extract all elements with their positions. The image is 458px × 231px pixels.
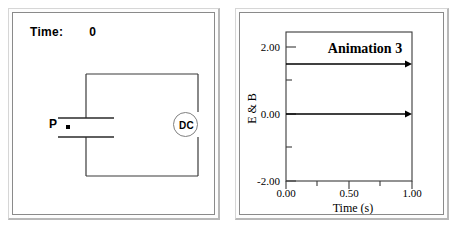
chart-title: Animation 3 (300, 41, 430, 57)
chart-panel-inner: Animation 3 E & B Time (s) 2.00 0.00 -2.… (239, 12, 444, 215)
chart-xtick-label-050: 0.50 (327, 187, 371, 199)
chart-xtick-label-0: 0.00 (264, 187, 308, 199)
chart-panel: Animation 3 E & B Time (s) 2.00 0.00 -2.… (235, 8, 449, 220)
dc-source-symbol: DC (173, 112, 198, 137)
chart-x-axis-label: Time (s) (268, 201, 438, 215)
circuit-panel: Time:0 P DC (8, 8, 220, 220)
chart-xtick-label-100: 1.00 (390, 187, 434, 199)
dc-source-label: DC (174, 113, 199, 138)
chart-ytick-label-2: 2.00 (240, 41, 280, 53)
chart-ytick-label-minus2: -2.00 (240, 175, 280, 187)
capacitor-point-label: P (49, 117, 57, 131)
capacitor-point-marker (66, 125, 70, 129)
circuit-panel-inner: Time:0 P DC (12, 12, 215, 215)
application-stage: Time:0 P DC (0, 0, 458, 231)
chart-ytick-label-0: 0.00 (240, 108, 280, 120)
